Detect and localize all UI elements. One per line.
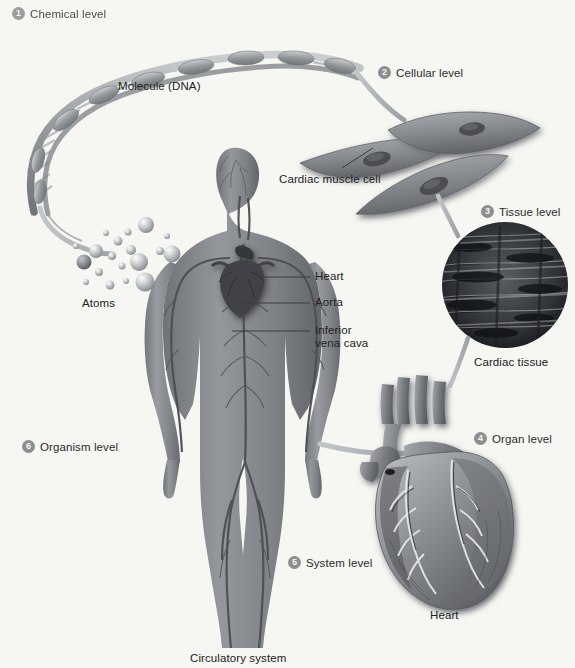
level-label-1: 1 Chemical level <box>12 7 106 20</box>
level-label-4: 4 Organ level <box>474 432 552 445</box>
level-badge-6: 6 <box>22 440 35 453</box>
cardiac-muscle-cell-caption: Cardiac muscle cell <box>279 173 381 185</box>
cardiac-tissue-caption: Cardiac tissue <box>474 356 548 368</box>
level-text-6: Organism level <box>40 441 118 453</box>
molecule-dna-caption: Molecule (DNA) <box>118 80 201 92</box>
aorta-label: Aorta <box>315 296 343 308</box>
level-label-6: 6 Organism level <box>22 440 118 453</box>
circulatory-system-caption: Circulatory system <box>190 652 286 664</box>
atoms-caption: Atoms <box>82 297 115 309</box>
level-text-3: Tissue level <box>499 206 561 218</box>
level-label-5: 5 System level <box>288 556 372 569</box>
levels-of-organization-figure: 1 Chemical level 2 Cellular level 3 Tiss… <box>0 0 575 668</box>
inferior-vena-cava-line2: vena cava <box>315 337 368 349</box>
level-label-2: 2 Cellular level <box>378 66 463 79</box>
heart-organ-caption: Heart <box>430 609 459 621</box>
inferior-vena-cava-label: Inferior vena cava <box>315 324 385 349</box>
level-badge-2: 2 <box>378 66 391 79</box>
level-badge-5: 5 <box>288 556 301 569</box>
level-badge-1: 1 <box>12 7 25 20</box>
inferior-vena-cava-line1: Inferior <box>315 324 352 336</box>
level-badge-3: 3 <box>481 205 494 218</box>
level-text-4: Organ level <box>492 433 552 445</box>
heart-label: Heart <box>315 270 344 282</box>
level-label-3: 3 Tissue level <box>481 205 561 218</box>
level-text-1: Chemical level <box>30 8 106 20</box>
level-badge-4: 4 <box>474 432 487 445</box>
level-text-5: System level <box>306 557 372 569</box>
level-text-2: Cellular level <box>396 67 463 79</box>
